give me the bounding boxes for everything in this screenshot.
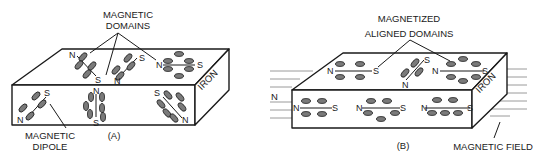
svg-text:S: S [467,103,473,113]
panel-b-caption: (B) [397,140,410,151]
svg-text:N: N [356,103,363,113]
svg-text:N: N [293,103,300,113]
field-north-pole-label: N [271,91,278,102]
svg-text:N: N [432,66,439,76]
magnetic-dipole-label-line1: MAGNETIC [25,130,75,141]
svg-text:S: S [400,103,406,113]
svg-text:N: N [182,115,189,125]
svg-text:S: S [139,53,145,63]
field-leader-line [494,122,500,138]
magnetized-label-line1: MAGNETIZED [378,13,440,24]
magnetic-domains-diagram: MAGNETIC DOMAINS N S S N [0,0,548,163]
svg-text:N: N [93,86,100,96]
svg-text:N: N [421,103,428,113]
aligned-domains-label-line2: ALIGNED DOMAINS [365,28,454,39]
magnetic-domains-label-line2: DOMAINS [106,20,150,31]
magnetic-domains-label-line1: MAGNETIC [103,9,153,20]
svg-text:S: S [373,66,379,76]
svg-text:S: S [95,75,101,85]
svg-text:S: S [93,118,99,128]
svg-text:S: S [424,55,430,65]
iron-block-front-face-b [292,90,472,128]
svg-text:S: S [154,88,160,98]
svg-text:S: S [332,103,338,113]
svg-text:N: N [114,76,121,86]
panel-a: MAGNETIC DOMAINS N S S N [12,9,229,152]
svg-text:S: S [44,88,50,98]
svg-text:N: N [17,115,24,125]
svg-text:N: N [327,66,334,76]
svg-text:S: S [197,60,203,70]
svg-text:N: N [402,80,409,90]
svg-text:N: N [156,60,163,70]
panel-a-caption: (A) [108,130,121,141]
svg-text:N: N [69,50,76,60]
panel-b: N MAGNETIZED ALIGNED DOMAINS N S [270,13,533,152]
magnetic-field-label: MAGNETIC FIELD [453,141,533,152]
magnetic-dipole-label-line2: DIPOLE [33,141,68,152]
